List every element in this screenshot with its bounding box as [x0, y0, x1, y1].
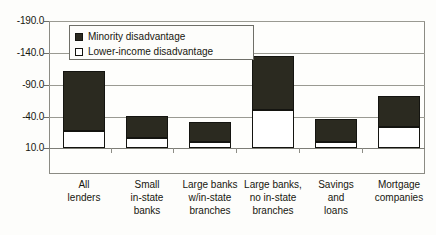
bar-group-large-banks-with-branches[interactable]	[189, 122, 231, 148]
legend-label-minority: Minority disadvantage	[88, 32, 185, 42]
bar-segment-lower-income[interactable]	[63, 131, 105, 148]
xlabel-line: companies	[359, 191, 436, 204]
bar-group-small-in-state-banks[interactable]	[126, 116, 168, 148]
bar-segment-lower-income[interactable]	[252, 110, 294, 148]
x-axis-labels: Alllenders Smallin-statebanks Large bank…	[49, 178, 425, 234]
bar-segment-minority[interactable]	[126, 116, 168, 138]
bar-segment-lower-income[interactable]	[126, 138, 168, 148]
ytick-label-190: -190.0	[0, 16, 44, 26]
bar-segment-lower-income[interactable]	[378, 127, 420, 148]
xlabel-mortgage-companies: Mortgagecompanies	[359, 178, 436, 204]
bar-chart: -190.0 -140.0 -90.0 -40.0 10.0 Alllender…	[0, 0, 436, 235]
bar-segment-minority[interactable]	[315, 119, 357, 142]
legend-item-lower-income[interactable]: Lower-income disadvantage	[75, 44, 248, 59]
ytick-label-10: 10.0	[0, 143, 44, 153]
bar-segment-lower-income[interactable]	[315, 142, 357, 148]
legend-swatch-minority-icon	[75, 33, 83, 41]
ytick-label-140: -140.0	[0, 48, 44, 58]
bar-group-savings-and-loans[interactable]	[315, 119, 357, 148]
legend-swatch-lower-income-icon	[75, 48, 83, 56]
legend: Minority disadvantage Lower-income disad…	[69, 25, 254, 60]
legend-label-lower-income: Lower-income disadvantage	[88, 47, 213, 57]
bar-segment-minority[interactable]	[378, 96, 420, 127]
xlabel-line: Mortgage	[359, 178, 436, 191]
xlabel-line: loans	[298, 204, 374, 217]
bar-segment-minority[interactable]	[189, 122, 231, 142]
bar-group-large-banks-no-branches[interactable]	[252, 56, 294, 148]
bar-segment-minority[interactable]	[252, 56, 294, 110]
legend-item-minority[interactable]: Minority disadvantage	[75, 29, 248, 44]
bar-segment-lower-income[interactable]	[189, 142, 231, 148]
ytick-label-40: -40.0	[0, 112, 44, 122]
bar-group-all-lenders[interactable]	[63, 71, 105, 148]
bar-group-mortgage-companies[interactable]	[378, 96, 420, 148]
bar-segment-minority[interactable]	[63, 71, 105, 131]
ytick-label-90: -90.0	[0, 80, 44, 90]
